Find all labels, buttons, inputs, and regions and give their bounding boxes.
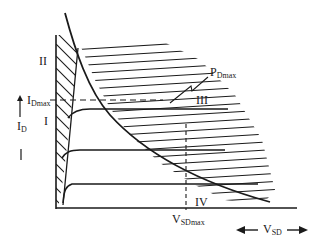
arrow-up-icon [17,95,23,101]
region-pdmax-hatch [70,36,300,218]
region-iii-label: III [196,94,208,106]
arrow-right-icon [299,226,308,234]
id-axis-label: ID [17,120,27,134]
pdmax-curve [65,13,270,202]
soa-diagram [0,0,327,248]
pdmax-label: PDmax [210,66,236,80]
ohmic-boundary [63,48,78,205]
region-ii-label: II [39,55,47,67]
region-i-label: I [44,115,48,127]
vsdmax-label: VSDmax [172,213,205,227]
idmax-label: IDmax [27,94,51,108]
arrow-left-icon [236,226,245,234]
region-iv-label: IV [195,196,208,208]
vsd-axis-label: VSD [263,223,282,237]
